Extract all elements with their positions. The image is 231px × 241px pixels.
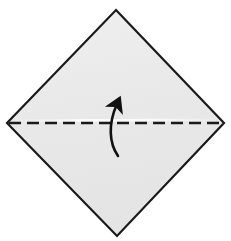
origami-diagram: Origami step: valley fold square in half… — [0, 0, 231, 241]
diagram-canvas — [0, 0, 231, 241]
